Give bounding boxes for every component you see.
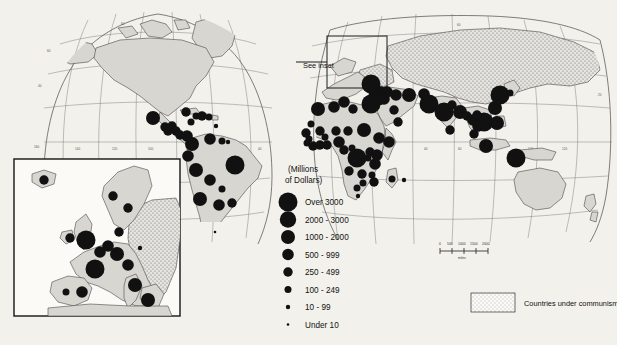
aid-circle: [479, 139, 493, 153]
aid-circle: [308, 121, 315, 128]
aid-circle: [360, 180, 367, 187]
aid-circle: [348, 149, 367, 168]
communism-swatch: [471, 293, 515, 312]
aid-circle: [181, 107, 190, 116]
aid-circle: [128, 278, 142, 292]
world-map-svg: 60 60 40 160 140 120 100 80 60 40: [0, 0, 617, 345]
aid-circle: [213, 199, 225, 211]
aid-circle: [123, 203, 132, 212]
aid-circle: [507, 149, 526, 168]
scale-label-1: 500: [447, 242, 453, 246]
aid-circle: [389, 105, 398, 114]
legend-panel: (Millions of Dollars) Over 30002000 - 30…: [279, 165, 350, 330]
aid-circle: [331, 126, 340, 135]
aid-circle: [197, 111, 206, 120]
aid-circle: [63, 289, 70, 296]
aid-circle: [163, 126, 172, 135]
aid-circle: [357, 123, 371, 137]
aid-circle: [110, 247, 124, 261]
legend-units-line1: (Millions: [288, 165, 318, 174]
legend-symbol: [285, 286, 292, 293]
aid-circle: [193, 192, 207, 206]
aid-circle: [185, 137, 199, 151]
north-america: [94, 38, 214, 116]
aid-circle: [219, 186, 226, 193]
legend-symbol: [287, 323, 290, 326]
aid-circle: [490, 116, 504, 130]
aid-circle: [122, 259, 134, 271]
aid-circle: [39, 175, 48, 184]
aid-circle: [108, 191, 117, 200]
aid-circle: [369, 158, 381, 170]
aid-circle: [94, 246, 106, 258]
aid-circle: [338, 96, 350, 108]
aid-circle: [393, 117, 402, 126]
svg-text:120: 120: [112, 147, 117, 151]
svg-text:20: 20: [598, 93, 602, 97]
south-america: [186, 134, 262, 236]
communism-legend: Countries under communism: [471, 293, 617, 312]
aid-circle: [227, 198, 236, 207]
aid-circle: [141, 293, 155, 307]
aid-circle: [204, 174, 216, 186]
legend-class-label: 250 - 499: [305, 268, 340, 277]
aid-circle: [65, 233, 74, 242]
aid-circle: [507, 90, 514, 97]
legend-symbol: [280, 211, 296, 227]
legend-symbol: [283, 267, 292, 276]
legend-class-label: 2000 - 3000: [305, 216, 349, 225]
scale-bar: 0 500 1000 1500 2000 miles: [439, 242, 490, 260]
legend-class-label: Under 10: [305, 321, 339, 330]
scale-label-0: 0: [439, 242, 441, 246]
aid-circle: [206, 114, 213, 121]
svg-text:60: 60: [457, 23, 461, 27]
legend-class-label: 500 - 999: [305, 251, 340, 260]
aid-circle: [357, 169, 366, 178]
aid-circle: [146, 111, 160, 125]
aid-circle: [214, 124, 218, 128]
aid-circle: [189, 163, 203, 177]
aid-circle: [354, 185, 361, 192]
communism-legend-label: Countries under communism: [524, 299, 617, 308]
svg-text:40: 40: [258, 147, 262, 151]
aid-circle: [76, 286, 88, 298]
svg-text:40: 40: [424, 147, 428, 151]
svg-text:40: 40: [38, 84, 42, 88]
aid-circle: [226, 140, 230, 144]
aid-circle: [445, 125, 454, 134]
aid-circle: [322, 134, 329, 141]
aid-circle: [214, 231, 217, 234]
aid-circle: [77, 231, 96, 250]
svg-text:160: 160: [34, 145, 39, 149]
legend-class-label: 1000 - 2000: [305, 233, 349, 242]
map-figure: 60 60 40 160 140 120 100 80 60 40: [0, 0, 617, 345]
aid-circle: [219, 138, 226, 145]
aid-circle: [188, 119, 195, 126]
svg-text:60: 60: [458, 147, 462, 151]
legend-symbol: [279, 193, 298, 212]
aid-circle: [328, 101, 340, 113]
aid-circle: [378, 93, 390, 105]
see-inset-label-line1: See inset: [303, 61, 334, 70]
eastern-landmasses: [300, 28, 600, 222]
aid-circle: [383, 136, 395, 148]
aid-circle: [389, 176, 396, 183]
svg-text:140: 140: [75, 147, 80, 151]
europe-inset: [14, 159, 182, 316]
aid-circle: [114, 227, 123, 236]
svg-text:60: 60: [47, 49, 51, 53]
aid-circle: [86, 260, 105, 279]
legend-class-label: Over 3000: [305, 198, 344, 207]
aid-circle: [365, 155, 372, 162]
aid-circle: [472, 110, 481, 119]
scale-label-3: 1500: [470, 242, 478, 246]
legend-class-label: 10 - 99: [305, 303, 331, 312]
aid-circle: [390, 89, 402, 101]
australia: [514, 168, 566, 210]
legend-symbol: [281, 230, 295, 244]
svg-text:60: 60: [121, 22, 125, 26]
aid-circle: [402, 178, 406, 182]
aid-circle: [469, 129, 478, 138]
aid-circle: [226, 156, 245, 175]
aid-circle: [491, 86, 510, 105]
